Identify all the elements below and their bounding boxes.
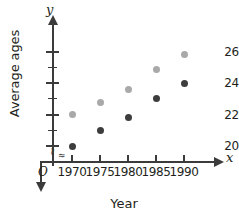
x-axis-tick: [183, 155, 185, 163]
y-axis-title: Average ages: [7, 19, 22, 129]
origin-label: O: [38, 165, 48, 179]
x-axis-break-squiggle-icon: ≈: [58, 151, 65, 160]
data-point: [153, 95, 160, 102]
arrow-down-icon: [36, 182, 46, 192]
scatter-plot-figure: ≈ ≈ y x O Average ages Year 202224261970…: [0, 0, 239, 220]
x-axis-tick: [155, 155, 157, 163]
data-point: [181, 51, 188, 58]
y-axis-tick-label: 22: [217, 109, 239, 121]
y-axis-tick: [46, 145, 59, 147]
data-point: [125, 86, 132, 93]
x-axis-title: Year: [69, 196, 179, 211]
y-axis-minor-tick: [48, 67, 57, 68]
data-point: [97, 99, 104, 106]
y-axis-tick-label: 24: [217, 77, 239, 89]
y-axis-tick: [46, 51, 59, 53]
y-axis-tick-label: 26: [217, 46, 239, 58]
x-axis-tick: [71, 155, 73, 163]
data-point: [181, 80, 188, 87]
y-axis-minor-tick: [48, 98, 57, 99]
data-point: [125, 114, 132, 121]
x-axis-tick-label: 1990: [167, 166, 201, 178]
data-point: [153, 66, 160, 73]
y-axis-variable-label: y: [46, 2, 53, 17]
x-axis-tick: [127, 155, 129, 163]
data-point: [69, 143, 76, 150]
data-point: [69, 111, 76, 118]
y-axis-tick-label: 20: [217, 140, 239, 152]
arrow-right-icon: [214, 157, 224, 167]
x-axis-tick: [99, 155, 101, 163]
y-axis-break-squiggle-icon: ≈: [49, 147, 56, 156]
data-point: [97, 127, 104, 134]
y-axis-tick: [46, 114, 59, 116]
y-axis-tick: [46, 82, 59, 84]
y-axis-minor-tick: [48, 130, 57, 131]
